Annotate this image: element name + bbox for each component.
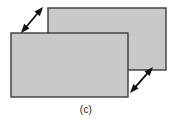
figure-container: (c) [0, 0, 172, 121]
front-plate-rectangle [11, 33, 128, 97]
figure-drawing-canvas [0, 0, 172, 121]
